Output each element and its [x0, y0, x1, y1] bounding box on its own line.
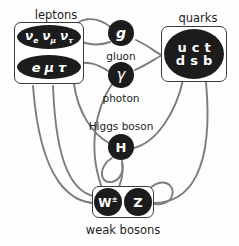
photon-node[interactable]: γ	[108, 62, 134, 88]
gluon-symbol: g	[116, 25, 126, 41]
z-boson-symbol: Z	[133, 195, 142, 210]
edge-w-neutrinos	[33, 86, 102, 203]
quarks-node[interactable]: u c t d s b	[164, 29, 224, 79]
higgs-symbol: H	[116, 140, 127, 155]
quark-down: d	[176, 54, 185, 67]
neutrino-muon: νμ	[42, 30, 56, 45]
edge-w-charged-leptons	[53, 86, 100, 197]
neutrino-electron: νe	[25, 30, 38, 45]
tau-symbol: τ	[58, 61, 66, 74]
charged-leptons-node[interactable]: e μ τ	[17, 55, 81, 79]
photon-symbol: γ	[117, 66, 126, 84]
higgs-node[interactable]: H	[108, 134, 134, 160]
edge-higgs-self	[102, 158, 123, 182]
quark-strange: s	[190, 54, 198, 67]
leptons-group-label: leptons	[26, 8, 86, 22]
neutrinos-node[interactable]: νe νμ ντ	[17, 25, 81, 49]
w-boson-node[interactable]: W±	[94, 188, 122, 216]
gluon-node[interactable]: g	[108, 20, 134, 46]
electron-symbol: e	[32, 61, 41, 74]
z-boson-node[interactable]: Z	[124, 188, 152, 216]
w-boson-charge: ±	[111, 195, 117, 204]
quarks-group-label: quarks	[168, 11, 228, 25]
weak-bosons-group-label: weak bosons	[83, 223, 163, 237]
neutrino-tau: ντ	[60, 30, 73, 45]
edge-higgs-quarks	[134, 80, 183, 148]
w-boson-symbol: W	[98, 196, 111, 210]
particle-interaction-diagram: leptons νe νμ ντ e μ τ quarks u c t d s	[0, 0, 239, 246]
edge-z-quarks	[152, 82, 208, 203]
muon-symbol: μ	[44, 61, 54, 74]
quark-bottom: b	[203, 54, 212, 67]
photon-label: photon	[96, 92, 146, 104]
gluon-label: gluon	[96, 50, 146, 62]
quark-letters: u c t d s b	[176, 41, 212, 67]
higgs-label: Higgs boson	[78, 120, 164, 132]
